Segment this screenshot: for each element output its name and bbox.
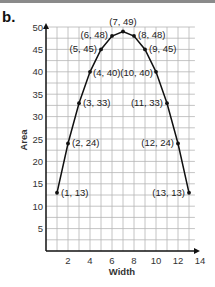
y-tick-label: 20 — [32, 156, 43, 167]
data-point — [99, 48, 103, 52]
point-label: (12, 24) — [141, 137, 174, 148]
data-point — [77, 101, 81, 105]
y-tick-label: 30 — [32, 111, 43, 122]
point-label: (7, 49) — [109, 16, 136, 27]
area-width-chart: 2468101214 5101520253035404550 (1, 13)(2… — [0, 0, 215, 287]
data-point — [176, 142, 180, 146]
y-tick-label: 40 — [32, 66, 43, 77]
point-label: (3, 33) — [83, 97, 110, 108]
data-point — [143, 48, 147, 52]
data-point — [187, 191, 191, 195]
y-tick-label: 25 — [32, 134, 43, 145]
x-axis-arrow-icon — [194, 248, 200, 254]
data-point — [88, 70, 92, 74]
y-tick-label: 50 — [32, 22, 43, 33]
y-tick-label: 35 — [32, 89, 43, 100]
y-tick-label: 15 — [32, 178, 43, 189]
data-point — [110, 34, 114, 38]
x-tick-label: 10 — [151, 255, 162, 266]
x-tick-labels: 2468101214 — [65, 255, 205, 266]
point-label: (1, 13) — [61, 187, 88, 198]
point-label: (11, 33) — [131, 97, 163, 108]
point-label: (5, 45) — [70, 43, 97, 54]
data-point — [66, 142, 70, 146]
point-label: (4, 40) — [93, 67, 120, 78]
y-tick-labels: 5101520253035404550 — [32, 22, 43, 235]
point-label: (2, 24) — [72, 137, 99, 148]
point-label: (6, 48) — [81, 29, 108, 40]
x-tick-label: 14 — [195, 255, 206, 266]
y-tick-label: 5 — [38, 223, 43, 234]
y-tick-label: 10 — [32, 201, 43, 212]
point-label: (13, 13) — [152, 187, 185, 198]
y-tick-label: 45 — [32, 44, 43, 55]
x-tick-label: 6 — [109, 255, 114, 266]
data-point — [55, 191, 59, 195]
point-label: (9, 45) — [149, 43, 176, 54]
data-point — [165, 101, 169, 105]
point-label: (10, 40) — [120, 67, 153, 78]
x-tick-label: 8 — [131, 255, 136, 266]
data-point — [121, 30, 125, 34]
y-axis-arrow-icon — [43, 23, 49, 29]
x-axis-title: Width — [109, 266, 135, 277]
x-tick-label: 2 — [65, 255, 70, 266]
x-tick-label: 4 — [87, 255, 92, 266]
y-axis-title: Area — [18, 129, 29, 151]
x-tick-label: 12 — [173, 255, 184, 266]
point-label: (8, 48) — [138, 29, 165, 40]
data-point — [132, 34, 136, 38]
data-point — [154, 70, 158, 74]
